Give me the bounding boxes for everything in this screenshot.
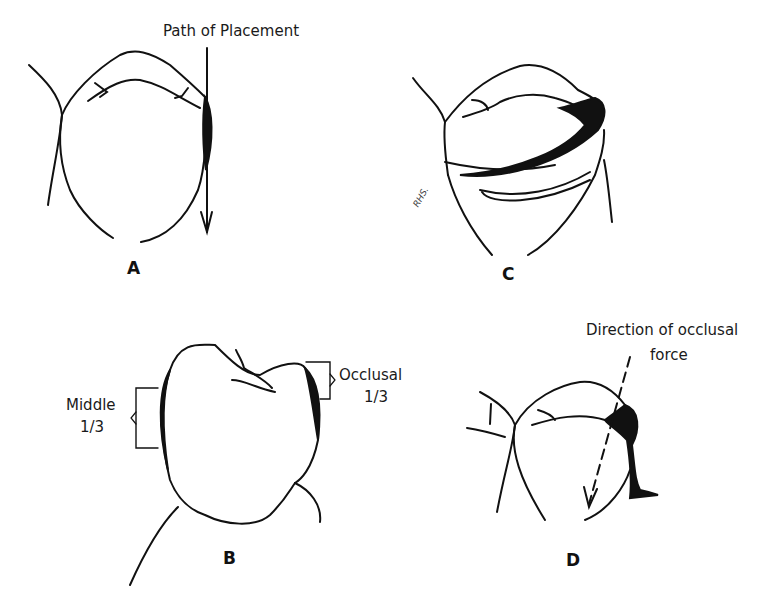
panel-label-c: C [502, 264, 514, 284]
panel-label-d: D [566, 550, 580, 570]
occlusal-third-label: Occlusal [339, 366, 402, 384]
figure-drawing [0, 0, 779, 602]
path-of-placement-label: Path of Placement [163, 22, 299, 40]
occlusal-force-label-line1: Direction of occlusal [586, 321, 738, 339]
panel-a-tooth [29, 48, 212, 242]
panel-label-b: B [223, 548, 236, 568]
panel-label-a: A [127, 258, 140, 278]
middle-third-fraction: 1/3 [80, 418, 104, 436]
occlusal-force-label-line2: force [650, 346, 688, 364]
panel-d-tooth [467, 357, 658, 520]
panel-c-tooth [413, 65, 612, 255]
occlusal-third-fraction: 1/3 [364, 388, 388, 406]
middle-third-label: Middle [66, 396, 116, 414]
